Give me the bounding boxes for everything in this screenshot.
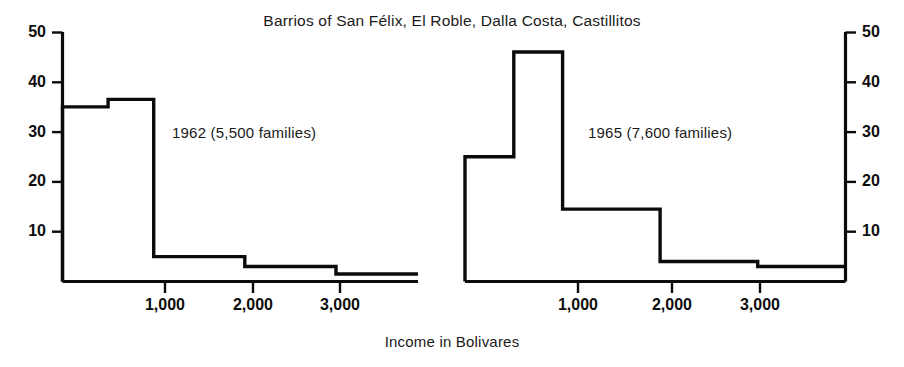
panel-1962 <box>52 32 418 293</box>
left-ytick-label-40: 40 <box>6 73 46 91</box>
right-ytick-label-40: 40 <box>862 73 902 91</box>
right-ytick-label-50: 50 <box>862 23 902 41</box>
panel-1965 <box>465 32 856 293</box>
left-ytick-label-50: 50 <box>6 23 46 41</box>
right-ytick-label-30: 30 <box>862 123 902 141</box>
left-xtick-label-2000: 2,000 <box>218 296 288 314</box>
left-ytick-label-30: 30 <box>6 123 46 141</box>
right-xtick-label-3000: 3,000 <box>725 296 795 314</box>
histogram-figure: Barrios of San Félix, El Roble, Dalla Co… <box>0 0 904 367</box>
left-xtick-label-3000: 3,000 <box>305 296 375 314</box>
right-xtick-label-1000: 1,000 <box>543 296 613 314</box>
left-ytick-label-10: 10 <box>6 222 46 240</box>
right-ytick-label-20: 20 <box>862 172 902 190</box>
left-ytick-label-20: 20 <box>6 172 46 190</box>
step-line-1965 <box>465 52 846 282</box>
step-line-1962 <box>63 99 419 281</box>
right-xtick-label-2000: 2,000 <box>637 296 707 314</box>
x-axis-label: Income in Bolivares <box>0 333 904 350</box>
right-ytick-label-10: 10 <box>862 222 902 240</box>
left-xtick-label-1000: 1,000 <box>130 296 200 314</box>
